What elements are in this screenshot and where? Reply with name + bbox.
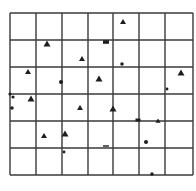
square-marker-icon: [103, 40, 109, 44]
triangle-marker-icon: [96, 76, 103, 82]
dot-marker-icon: [150, 172, 154, 176]
triangle-marker-icon: [41, 133, 47, 138]
dash-marker-icon: [103, 145, 109, 146]
triangle-marker-icon: [28, 96, 35, 102]
triangle-marker-icon: [79, 56, 85, 61]
triangle-marker-icon: [77, 105, 83, 110]
dot-marker-icon: [166, 88, 169, 91]
triangle-marker-icon: [25, 69, 31, 74]
grid-diagram: [0, 0, 196, 191]
scatter-marks: [8, 19, 184, 176]
square-marker-icon: [136, 119, 141, 122]
triangle-marker-icon: [178, 70, 185, 76]
dot-marker-icon: [11, 95, 14, 98]
dot-marker-icon: [8, 92, 11, 95]
dot-marker-icon: [144, 140, 148, 144]
triangle-marker-icon: [44, 41, 51, 47]
dot-marker-icon: [59, 80, 63, 84]
grid-lines: [10, 13, 193, 175]
triangle-marker-icon: [120, 19, 126, 24]
dot-marker-icon: [120, 62, 124, 66]
dot-marker-icon: [10, 106, 14, 110]
triangle-marker-icon: [110, 106, 117, 112]
grid-canvas: [0, 0, 196, 191]
dot-marker-icon: [63, 151, 66, 154]
